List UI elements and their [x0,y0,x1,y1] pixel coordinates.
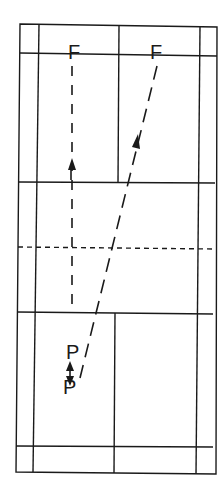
label-player-bottom: P [63,377,76,397]
court-lines [16,24,217,474]
label-player-top: P [66,342,79,362]
bottom-center-line [114,313,115,473]
straight-shot-arrow-icon [68,158,76,170]
top-center-line [118,26,119,183]
right-singles-sideline [196,27,200,474]
cross-court-shot-arrow-icon [132,134,140,149]
top-short-service-line [19,182,215,183]
badminton-court-diagram [0,0,222,479]
net-line [18,247,215,249]
label-front-left: F [68,42,80,62]
left-singles-sideline [33,24,39,472]
straight-shot-path [71,66,72,310]
label-front-right: F [150,42,162,62]
court-outer-boundary [16,24,217,474]
